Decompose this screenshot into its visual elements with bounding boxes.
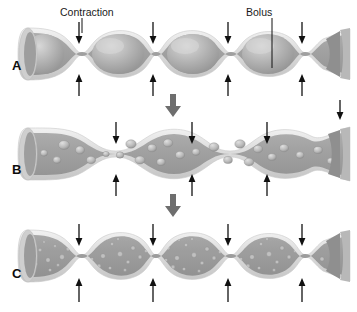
chyme-chunk [268, 154, 276, 161]
contraction-arrow-down [76, 224, 83, 246]
panel-label-c: C [12, 266, 22, 281]
contraction-arrow-up [225, 278, 232, 302]
callout-label-contraction: Contraction [60, 6, 114, 18]
cutaway-left-end [19, 128, 37, 180]
contraction-arrow-down [225, 224, 232, 246]
chyme-chunk [53, 157, 61, 164]
bolus-highlight [246, 38, 274, 54]
chyme-chunk [163, 139, 173, 147]
panel-c-illustration [0, 202, 357, 312]
chyme-chunk [126, 140, 136, 148]
chyme-chunk [279, 144, 288, 152]
chyme-chunk [59, 141, 70, 150]
contraction-arrow-up [299, 74, 306, 96]
contraction-arrow-up [113, 174, 120, 196]
chyme-chunk [209, 143, 219, 151]
down-arrow-icon [163, 94, 183, 118]
contraction-arrow-down [299, 224, 306, 246]
chyme-chunk [296, 152, 304, 159]
intestinal-segmentation-figure: A [0, 0, 357, 312]
chyme-chunk [116, 152, 124, 158]
contraction-arrow-up [150, 74, 157, 96]
panel-a-illustration [0, 0, 357, 100]
contraction-arrow-down [337, 100, 344, 120]
chyme-chunk [314, 146, 323, 153]
progression-arrow-a-to-b [163, 94, 183, 118]
chyme-chunk [103, 151, 109, 156]
contraction-arrow-down [150, 22, 157, 44]
chyme-chunk [76, 146, 85, 154]
chyme-chunk [253, 145, 262, 153]
chyme-chunk [192, 149, 200, 156]
contraction-arrow-up [76, 74, 83, 96]
contraction-arrow-up [225, 74, 232, 96]
contraction-arrow-up [189, 174, 196, 196]
panel-a: A [0, 0, 357, 100]
bolus-highlight [96, 38, 124, 54]
chyme-chunk [148, 144, 157, 152]
chyme-chunk [40, 150, 47, 156]
panel-label-b: B [12, 162, 22, 177]
contraction-arrow-down [113, 122, 120, 144]
panel-label-a: A [12, 58, 22, 73]
chyme-chunk [235, 140, 245, 148]
chyme-chunk [86, 156, 95, 164]
chyme-chunk [135, 156, 145, 164]
progression-arrow-b-to-c [163, 194, 183, 218]
contraction-arrow-up [150, 278, 157, 302]
callout-label-bolus: Bolus [246, 6, 272, 18]
chyme-chunk [175, 151, 184, 159]
chyme-chunk [157, 158, 165, 165]
contraction-arrow-down [299, 22, 306, 44]
chyme-chunk [224, 156, 233, 163]
bolus-highlight [171, 38, 199, 54]
contraction-arrow-up [264, 174, 271, 196]
contraction-arrow-down [76, 22, 83, 44]
contraction-arrow-down [225, 22, 232, 44]
contraction-arrow-up [299, 278, 306, 302]
contraction-arrow-up [76, 278, 83, 302]
down-arrow-icon [163, 194, 183, 218]
chyme-chunk [244, 158, 254, 166]
contraction-arrow-down [150, 224, 157, 246]
